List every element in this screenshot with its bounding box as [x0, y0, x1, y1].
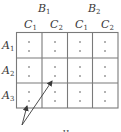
caption-partial-right: ll: [62, 128, 69, 132]
grid-diagram: [0, 0, 121, 132]
arrow-to-a3c1: [22, 106, 27, 125]
grid-lines: [17, 33, 119, 109]
caption-cutoff: · ll: [0, 126, 121, 132]
caption-partial-left: ·: [14, 128, 18, 132]
pointer-arrows: [22, 81, 52, 125]
arrow-to-a2c2: [22, 81, 52, 125]
